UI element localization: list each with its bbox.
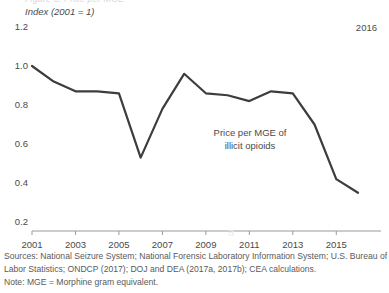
x-axis-tick-label: 2003 <box>55 240 95 250</box>
notes-line-1: Sources: National Seizure System; Nation… <box>4 250 388 263</box>
plot-area <box>0 0 389 250</box>
x-axis-tick-label: 2007 <box>142 240 182 250</box>
end-year-label: 2016 <box>356 22 377 33</box>
annotation-line-2: illicit opioids <box>190 140 310 153</box>
y-axis-tick-label: 0.2 <box>8 217 28 227</box>
x-axis-tick-label: 2005 <box>99 240 139 250</box>
notes-line-2: Labor Statistics; ONDCP (2017); DOJ and … <box>4 263 388 276</box>
cut-off-header: Figure 3. Price per MGE <box>25 0 124 4</box>
axis-tickmarks <box>32 231 336 235</box>
x-axis-tick-label: 2015 <box>316 240 356 250</box>
source-notes: Sources: National Seizure System; Nation… <box>4 250 388 289</box>
y-axis-tick-label: 0.6 <box>8 139 28 149</box>
y-axis-tick-label: 0.8 <box>8 100 28 110</box>
x-axis-tick-label: 2001 <box>12 240 52 250</box>
y-axis-tick-label: 0.4 <box>8 178 28 188</box>
y-axis-title: Index (2001 = 1) <box>25 6 94 17</box>
x-axis-tick-label: 2009 <box>186 240 226 250</box>
y-axis-tick-label: 1.2 <box>8 22 28 32</box>
y-axis-tick-label: 1.0 <box>8 61 28 71</box>
annotation-line-1: Price per MGE of <box>190 127 310 140</box>
notes-line-3: Note: MGE = Morphine gram equivalent. <box>4 276 388 289</box>
x-axis-tick-label: 2013 <box>273 240 313 250</box>
x-axis-tick-label: 2011 <box>229 240 269 250</box>
chart-figure: Figure 3. Price per MGE Index (2001 = 1)… <box>0 0 389 293</box>
watermark-text: a <box>228 226 234 238</box>
series-annotation: Price per MGE of illicit opioids <box>190 127 310 153</box>
